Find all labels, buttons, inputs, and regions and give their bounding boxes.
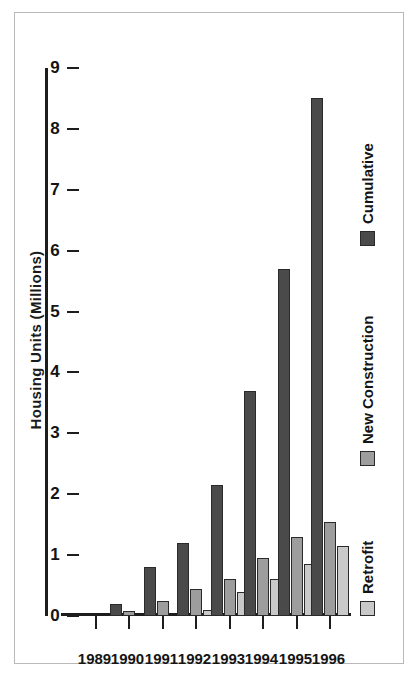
value-axis-tick: [67, 371, 79, 373]
year-axis-tick: [195, 616, 197, 629]
bar-new-construction-1991: [157, 601, 169, 616]
bar-cumulative-1990: [110, 604, 122, 616]
value-axis-tick-label: 0: [42, 606, 68, 626]
bar-cumulative-1995: [278, 269, 290, 616]
bar-cumulative-1994: [244, 391, 256, 616]
bar-new-construction-1994: [257, 558, 269, 616]
bar-new-construction-1993: [224, 579, 236, 616]
legend-item-new-construction: New Construction: [359, 316, 376, 466]
value-axis-tick: [67, 493, 79, 495]
value-axis-tick: [67, 67, 79, 69]
legend-item-cumulative: Cumulative: [359, 143, 376, 246]
value-axis-tick: [67, 311, 79, 313]
bar-new-construction-1990: [123, 611, 135, 616]
year-axis-tick: [95, 616, 97, 629]
plot-area: 0123456789198919901991199219931994199519…: [79, 68, 347, 616]
year-axis-tick: [229, 616, 231, 629]
chart-legend: RetrofitNew ConstructionCumulative: [359, 68, 389, 616]
value-axis-tick-label: 2: [42, 484, 68, 504]
legend-item-retrofit: Retrofit: [359, 541, 376, 616]
bar-cumulative-1996: [311, 98, 323, 616]
year-axis-tick: [329, 616, 331, 629]
bar-cumulative-1993: [211, 485, 223, 616]
value-axis-tick-label: 5: [42, 302, 68, 322]
value-axis-tick: [67, 250, 79, 252]
value-axis-tick: [67, 432, 79, 434]
value-axis-tick-label: 7: [42, 180, 68, 200]
value-axis-tick: [67, 128, 79, 130]
bar-retrofit-1996: [337, 546, 349, 616]
value-axis-tick-label: 3: [42, 423, 68, 443]
year-axis-tick: [162, 616, 164, 629]
value-axis-tick: [67, 615, 79, 617]
value-axis-line: [45, 68, 48, 616]
value-axis-tick-label: 6: [42, 241, 68, 261]
legend-label-cumulative: Cumulative: [359, 143, 376, 224]
bar-cumulative-1992: [177, 543, 189, 616]
legend-swatch-retrofit: [360, 601, 375, 616]
value-axis-tick-label: 8: [42, 119, 68, 139]
legend-label-new-construction: New Construction: [359, 316, 376, 444]
year-axis-tick: [128, 616, 130, 629]
bar-cumulative-1991: [144, 567, 156, 616]
bar-new-construction-1995: [291, 537, 303, 616]
value-axis-tick: [67, 189, 79, 191]
bar-new-construction-1996: [324, 522, 336, 616]
legend-swatch-cumulative: [360, 231, 375, 246]
figure-page: Housing Units (Millions) 012345678919891…: [0, 0, 418, 680]
year-axis-tick: [296, 616, 298, 629]
value-axis-tick-label: 4: [42, 362, 68, 382]
legend-swatch-new-construction: [360, 451, 375, 466]
value-axis-tick: [67, 554, 79, 556]
chart: Housing Units (Millions) 012345678919891…: [23, 28, 395, 652]
legend-label-retrofit: Retrofit: [359, 541, 376, 594]
year-axis-tick: [262, 616, 264, 629]
rotated-chart-wrapper: Housing Units (Millions) 012345678919891…: [23, 28, 395, 652]
value-axis-tick-label: 1: [42, 545, 68, 565]
value-axis-tick-label: 9: [42, 58, 68, 78]
bar-new-construction-1992: [190, 589, 202, 616]
year-axis-label: 1996: [301, 650, 357, 667]
